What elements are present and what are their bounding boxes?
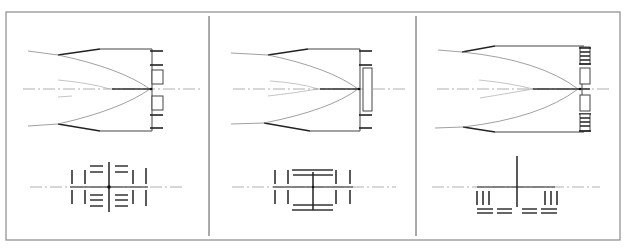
panel-3-side-view bbox=[435, 46, 612, 132]
panel-1-side-view bbox=[23, 49, 200, 131]
aperture-box-tall bbox=[363, 68, 372, 111]
panel-1 bbox=[23, 49, 200, 212]
panel-1-element-layout bbox=[30, 162, 182, 212]
figure-canvas bbox=[0, 0, 638, 248]
panel-3-element-layout bbox=[432, 156, 600, 213]
panel-3 bbox=[432, 46, 612, 213]
panel-2-side-view bbox=[231, 49, 405, 131]
panel-2-element-layout bbox=[232, 170, 396, 210]
aperture-box-lower bbox=[152, 96, 163, 110]
aperture-box-upper bbox=[152, 70, 163, 84]
aperture-stack-lower bbox=[579, 95, 591, 131]
panel-2 bbox=[231, 49, 405, 210]
aperture-stack-upper bbox=[579, 47, 591, 84]
